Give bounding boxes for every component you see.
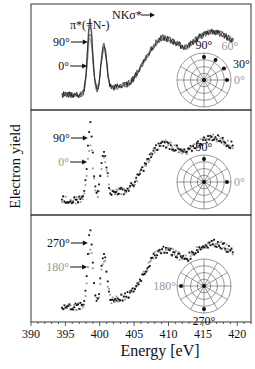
x-tick-label: 415: [194, 327, 212, 341]
polar-point: [202, 55, 206, 59]
x-tick-label: 395: [56, 327, 74, 341]
polar-point: [202, 157, 206, 161]
angle-annotation: 180°: [46, 260, 69, 274]
polar-label: 180°: [153, 279, 176, 293]
sigma-annotation: NKσ*: [112, 8, 142, 22]
polar-point: [179, 284, 183, 288]
polar-label: 90°: [196, 38, 213, 52]
y-axis-label: Electron yield: [7, 112, 24, 222]
panel-2: 90°0°90°0°: [31, 110, 251, 215]
polar-point: [213, 58, 217, 62]
polar-inset: 90°0°: [177, 140, 245, 209]
polar-label: 0°: [234, 73, 245, 87]
x-tick-label: 420: [228, 327, 246, 341]
polar-point: [202, 307, 206, 311]
polar-point: [225, 78, 229, 82]
polar-label: 0°: [234, 175, 245, 189]
pi-annotation: π*(=N-): [70, 18, 109, 32]
panel-3: 270°180°180°270°: [31, 215, 251, 328]
polar-label: 30°: [233, 57, 250, 71]
x-axis-label: Energy [eV]: [90, 342, 230, 360]
x-axis: 390395400405410415420: [22, 322, 251, 341]
polar-point: [222, 67, 226, 71]
angle-annotation: 0°: [58, 59, 69, 73]
x-tick-label: 400: [91, 327, 109, 341]
x-tick-label: 405: [125, 327, 143, 341]
polar-point: [225, 180, 229, 184]
spectra-chart: π*(=N-)NKσ*90°0°90°60°30°0°90°0°90°0°270…: [0, 0, 255, 369]
polar-label: 90°: [196, 140, 213, 154]
angle-annotation: 0°: [58, 155, 69, 169]
x-tick-label: 410: [160, 327, 178, 341]
polar-label: 60°: [222, 39, 239, 53]
angle-annotation: 90°: [53, 35, 70, 49]
polar-inset: 180°270°: [153, 259, 231, 328]
polar-inset: 90°60°30°0°: [177, 38, 250, 107]
x-tick-label: 390: [22, 327, 40, 341]
angle-annotation: 270°: [47, 236, 70, 250]
polar-label: 270°: [193, 314, 216, 328]
panel-1: π*(=N-)NKσ*90°0°90°60°30°0°: [31, 4, 251, 110]
angle-annotation: 90°: [53, 131, 70, 145]
